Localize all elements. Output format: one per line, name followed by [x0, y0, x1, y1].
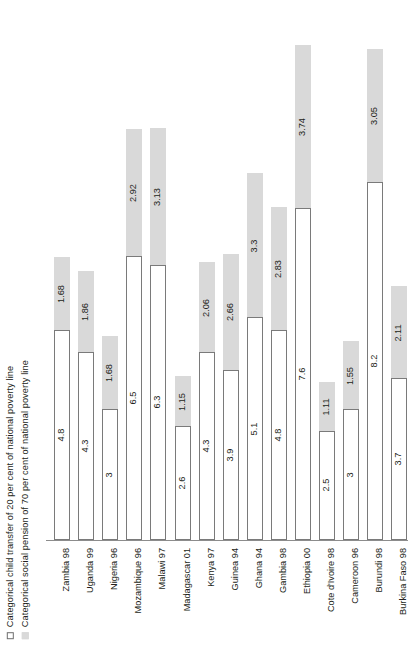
bar-segment-social-pension[interactable]: 2.83 — [271, 207, 287, 331]
legend-item-social-pension: Categorical social pension of 70 per cen… — [21, 360, 30, 639]
bar-segment-child-transfer[interactable]: 3.7 — [391, 378, 407, 540]
bar-group[interactable]: 2.926.5 — [126, 129, 142, 540]
x-axis-tick-text: Ethiopia 00 — [303, 548, 312, 594]
x-axis-tick-text: Burkina Faso 98 — [399, 548, 408, 615]
bar-segment-social-pension[interactable]: 1.68 — [54, 257, 70, 330]
bar-segment-social-pension[interactable]: 2.66 — [223, 254, 239, 370]
bar-segment-social-pension[interactable]: 1.68 — [102, 336, 118, 409]
bar-segment-social-pension[interactable]: 3.3 — [247, 173, 263, 317]
chart-legend: Categorical child transfer of 20 per cen… — [0, 0, 40, 645]
bar-value-label: 2.6 — [178, 477, 187, 490]
legend-swatch-white-icon — [7, 632, 14, 639]
bar-value-label: 1.55 — [347, 367, 356, 385]
bar-segment-social-pension[interactable]: 3.13 — [150, 128, 166, 265]
bar-segment-child-transfer[interactable]: 6.5 — [126, 256, 142, 540]
bar-segment-child-transfer[interactable]: 4.3 — [199, 352, 215, 540]
bar-value-label: 2.66 — [226, 303, 235, 321]
bar-value-label: 1.68 — [106, 364, 115, 382]
bar-segment-social-pension[interactable]: 1.15 — [175, 376, 191, 426]
bar-value-label: 3.74 — [298, 118, 307, 136]
x-axis-tick-text: Ghana 94 — [255, 548, 264, 588]
bar-value-label: 7.6 — [298, 368, 307, 381]
bar-value-label: 2.83 — [274, 260, 283, 278]
bar-segment-child-transfer[interactable]: 4.3 — [78, 352, 94, 540]
bar-value-label: 6.3 — [154, 396, 163, 409]
bar-segment-social-pension[interactable]: 2.11 — [391, 286, 407, 378]
bar-value-label: 5.1 — [250, 422, 259, 435]
legend-label-social-pension: Categorical social pension of 70 per cen… — [21, 360, 30, 627]
bar-value-label: 4.8 — [274, 429, 283, 442]
legend-swatch-gray-icon — [22, 632, 29, 639]
bar-value-label: 6.5 — [130, 392, 139, 405]
x-axis-labels: Zambia 98Uganda 99Nigeria 96Mozambique 9… — [46, 546, 415, 645]
x-axis-tick-text: Gambia 98 — [279, 548, 288, 593]
bar-segment-social-pension[interactable]: 1.86 — [78, 271, 94, 352]
bar-value-label: 2.11 — [395, 324, 404, 341]
bar-value-label: 3 — [347, 472, 356, 477]
bar-group[interactable]: 2.663.9 — [223, 254, 239, 540]
x-axis-tick-text: Burundi 98 — [375, 548, 384, 592]
bar-segment-social-pension[interactable]: 1.11 — [319, 382, 335, 430]
x-axis-tick-text: Zambia 98 — [62, 548, 71, 591]
x-axis-tick-text: Malawi 97 — [158, 548, 167, 589]
bar-segment-social-pension[interactable]: 1.55 — [343, 341, 359, 409]
legend-item-child-transfer: Categorical child transfer of 20 per cen… — [6, 366, 15, 639]
bar-segment-social-pension[interactable]: 2.06 — [199, 262, 215, 352]
bar-value-label: 2.5 — [322, 479, 331, 492]
bar-group[interactable]: 1.553 — [343, 341, 359, 540]
bar-segment-child-transfer[interactable]: 3 — [343, 409, 359, 540]
bar-segment-child-transfer[interactable]: 4.8 — [271, 330, 287, 540]
stacked-bar-chart: Categorical child transfer of 20 per cen… — [0, 0, 415, 645]
bar-group[interactable]: 2.113.7 — [391, 286, 407, 540]
x-axis-tick-text: Cote d'Ivoire 98 — [327, 548, 336, 612]
bar-value-label: 3.7 — [395, 453, 404, 466]
bar-segment-child-transfer[interactable]: 4.8 — [54, 330, 70, 540]
bar-group[interactable]: 1.684.8 — [54, 257, 70, 540]
x-axis-tick-text: Mozambique 96 — [134, 548, 143, 613]
bar-segment-child-transfer[interactable]: 6.3 — [150, 265, 166, 540]
bar-group[interactable]: 1.112.5 — [319, 382, 335, 540]
bar-group[interactable]: 3.35.1 — [247, 173, 263, 540]
bar-group[interactable]: 1.683 — [102, 336, 118, 540]
bar-value-label: 3 — [106, 472, 115, 477]
bar-segment-child-transfer[interactable]: 3 — [102, 409, 118, 540]
bar-group[interactable]: 1.152.6 — [175, 376, 191, 540]
bar-segment-child-transfer[interactable]: 7.6 — [295, 208, 311, 540]
bar-value-label: 3.9 — [226, 448, 235, 461]
x-axis-line — [46, 540, 408, 541]
bar-group[interactable]: 2.834.8 — [271, 207, 287, 540]
bar-value-label: 4.8 — [57, 429, 66, 442]
bar-value-label: 3.3 — [250, 239, 259, 252]
x-axis-tick-text: Guinea 94 — [231, 548, 240, 590]
bar-segment-child-transfer[interactable]: 2.5 — [319, 431, 335, 540]
legend-label-child-transfer: Categorical child transfer of 20 per cen… — [6, 366, 15, 627]
x-axis-tick-text: Uganda 99 — [86, 548, 95, 593]
bar-value-label: 2.06 — [202, 299, 211, 317]
bar-value-label: 8.2 — [371, 355, 380, 368]
bar-value-label: 3.05 — [371, 107, 380, 125]
bar-segment-child-transfer[interactable]: 5.1 — [247, 317, 263, 540]
bar-group[interactable]: 3.058.2 — [367, 49, 383, 540]
bar-value-label: 2.92 — [130, 184, 139, 202]
bar-segment-child-transfer[interactable]: 8.2 — [367, 182, 383, 540]
bar-group[interactable]: 3.747.6 — [295, 45, 311, 540]
x-axis-tick-text: Cameroon 96 — [351, 548, 360, 604]
x-axis-tick-text: Nigeria 96 — [110, 548, 119, 590]
bar-segment-social-pension[interactable]: 3.05 — [367, 49, 383, 182]
bar-group[interactable]: 1.864.3 — [78, 271, 94, 540]
bar-segment-social-pension[interactable]: 2.92 — [126, 129, 142, 257]
bar-segment-child-transfer[interactable]: 2.6 — [175, 426, 191, 540]
bar-value-label: 1.11 — [322, 399, 331, 416]
x-axis-tick-text: Kenya 97 — [207, 548, 216, 587]
bar-value-label: 3.13 — [154, 188, 163, 206]
bar-value-label: 4.3 — [81, 440, 90, 453]
x-axis-tick-text: Madagascar 01 — [183, 548, 192, 611]
bar-value-label: 4.3 — [202, 440, 211, 453]
bar-group[interactable]: 2.064.3 — [199, 262, 215, 540]
bar-segment-child-transfer[interactable]: 3.9 — [223, 370, 239, 540]
bar-value-label: 1.68 — [57, 285, 66, 303]
bar-value-label: 1.15 — [178, 393, 187, 411]
bar-container: 1.684.81.864.31.6832.926.53.136.31.152.6… — [46, 0, 415, 540]
bar-segment-social-pension[interactable]: 3.74 — [295, 45, 311, 208]
bar-group[interactable]: 3.136.3 — [150, 128, 166, 540]
